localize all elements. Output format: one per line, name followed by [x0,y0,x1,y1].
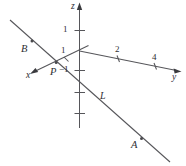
y-tick-label-2: 2 [115,45,120,54]
line-L-label: L [100,91,106,101]
point-B-marker [31,40,34,43]
y-tick-label-4: 4 [152,53,157,62]
z-tick-label-1: 1 [63,25,68,34]
point-P-marker [55,61,58,64]
x-tick-label-1: 1 [61,46,66,55]
point-B-label: B [21,44,27,55]
point-A-label: A [131,140,137,151]
point-P-label: P [50,67,56,78]
x-axis-arrowhead [30,68,38,74]
z-axis-label: z [71,2,75,12]
line-L [10,20,170,162]
z-axis-arrowhead [77,3,82,11]
x-tick-1 [64,57,69,62]
x-axis-label: x [26,71,30,81]
diagram-canvas [0,0,186,166]
z-tick-label-negative-1: −1 [59,65,69,74]
y-axis-line [80,51,177,71]
y-axis-label: y [172,73,176,83]
coordinate-diagram-figure: z 1 −1 1 2 4 y x B P A L [0,0,186,166]
point-A-marker [140,137,143,140]
